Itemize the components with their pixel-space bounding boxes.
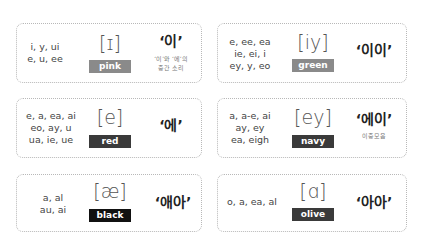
spellings: i, y, ui e, u, ee <box>21 41 69 65</box>
spellings: a, al au, ai <box>29 192 77 216</box>
spelling-line: ey, y, eo <box>222 60 278 72</box>
korean-pronunciation: ‘에’ <box>145 117 197 133</box>
vowel-card-pink: i, y, ui e, u, ee [ɪ] pink ‘이’ ‘이’와 ‘에’의… <box>16 23 202 83</box>
vowel-card-red: e, a, ea, ai eo, ay, u ua, ie, ue [e] re… <box>16 98 202 158</box>
pronunciation-note: 이중모음 <box>346 131 402 140</box>
vowel-card-olive: o, a, ea, al [ɑ] olive ‘아아’ <box>217 174 407 232</box>
korean-pronunciation: ‘이이’ <box>346 42 402 58</box>
spelling-line: e, a, ea, ai <box>21 110 81 122</box>
spelling-line: a, a-e, ai <box>222 110 278 122</box>
color-badge: green <box>292 59 334 72</box>
spellings: e, ee, ea ie, ei, i ey, y, eo <box>222 36 278 72</box>
spelling-line: e, u, ee <box>21 53 69 65</box>
korean-pronunciation: ‘이’ <box>145 33 197 49</box>
ipa-symbol: [iy] <box>286 31 340 53</box>
spellings: e, a, ea, ai eo, ay, u ua, ie, ue <box>21 110 81 146</box>
spelling-line: i, y, ui <box>21 41 69 53</box>
spellings: o, a, ea, al <box>220 196 284 208</box>
spelling-line: eo, ay, u <box>21 122 81 134</box>
note-line: 이중모음 <box>346 131 402 140</box>
color-badge: navy <box>292 135 334 148</box>
note-line: ‘이’와 ‘에’의 <box>141 54 201 63</box>
pronunciation-note: ‘이’와 ‘에’의 중간 소리 <box>141 54 201 72</box>
vowel-card-black: a, al au, ai [æ] black ‘애아’ <box>16 174 202 232</box>
spelling-line: ea, eigh <box>222 134 278 146</box>
color-badge: olive <box>292 208 334 221</box>
spellings: a, a-e, ai ay, ey ea, eigh <box>222 110 278 146</box>
spelling-line: ua, ie, ue <box>21 134 81 146</box>
spelling-line: ay, ey <box>222 122 278 134</box>
color-badge: black <box>89 209 131 222</box>
spelling-line: au, ai <box>29 204 77 216</box>
ipa-symbol: [ɪ] <box>87 32 133 54</box>
color-badge: red <box>89 135 131 148</box>
spelling-line: e, ee, ea <box>222 36 278 48</box>
ipa-symbol: [e] <box>87 106 133 128</box>
ipa-symbol: [ɑ] <box>286 180 340 202</box>
color-badge: pink <box>89 60 131 73</box>
vowel-card-navy: a, a-e, ai ay, ey ea, eigh [ey] navy ‘에이… <box>217 98 407 158</box>
ipa-symbol: [æ] <box>85 180 135 202</box>
spelling-line: o, a, ea, al <box>220 196 284 208</box>
korean-pronunciation: ‘에이’ <box>346 111 402 127</box>
korean-pronunciation: ‘애아’ <box>145 194 201 210</box>
korean-pronunciation: ‘아아’ <box>346 194 402 210</box>
ipa-symbol: [ey] <box>286 106 340 128</box>
vowel-card-green: e, ee, ea ie, ei, i ey, y, eo [iy] green… <box>217 23 407 83</box>
spelling-line: a, al <box>29 192 77 204</box>
note-line: 중간 소리 <box>141 63 201 72</box>
spelling-line: ie, ei, i <box>222 48 278 60</box>
